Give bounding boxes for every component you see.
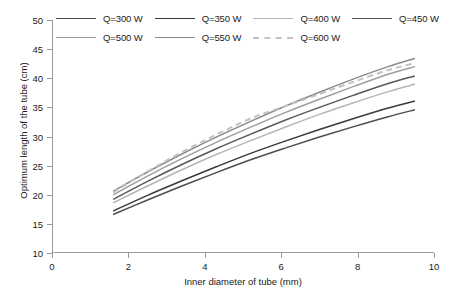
series-line: [113, 84, 415, 203]
y-tick-label: 25: [32, 160, 43, 171]
y-tick-label: 10: [32, 248, 43, 259]
series-line: [113, 101, 415, 211]
y-tick-label: 35: [32, 102, 43, 113]
x-tick-label: 8: [355, 261, 360, 272]
y-tick-label: 40: [32, 73, 43, 84]
x-tick-mark: [434, 253, 435, 258]
series-line: [113, 63, 415, 192]
x-tick-mark: [205, 253, 206, 258]
series-lines: [52, 20, 434, 253]
legend-line-swatch: [155, 18, 195, 19]
x-tick-label: 2: [126, 261, 131, 272]
x-tick-label: 0: [49, 261, 54, 272]
legend-line-swatch: [352, 18, 392, 19]
y-axis-title: Optimum length of the tube (cm): [18, 16, 29, 246]
series-line: [113, 58, 415, 191]
y-tick-label: 20: [32, 189, 43, 200]
y-tick-label: 45: [32, 44, 43, 55]
series-line: [113, 110, 415, 215]
x-axis-title: Inner diameter of tube (mm): [52, 276, 434, 287]
legend-line-swatch: [56, 18, 96, 19]
plot-area: 101520253035404550 0246810: [52, 20, 434, 253]
chart-container: Q=300 WQ=350 WQ=400 WQ=450 W Q=500 WQ=55…: [0, 0, 475, 295]
x-tick-mark: [281, 253, 282, 258]
x-tick-label: 4: [202, 261, 207, 272]
legend-line-swatch: [253, 18, 293, 19]
x-tick-mark: [358, 253, 359, 258]
x-tick-mark: [128, 253, 129, 258]
x-tick-mark: [52, 253, 53, 258]
x-tick-label: 10: [429, 261, 440, 272]
x-tick-label: 6: [279, 261, 284, 272]
y-tick-label: 50: [32, 15, 43, 26]
y-tick-label: 30: [32, 131, 43, 142]
y-tick-label: 15: [32, 218, 43, 229]
